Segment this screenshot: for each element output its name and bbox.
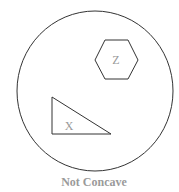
diagram-caption: Not Concave <box>61 175 127 189</box>
triangle-shape <box>52 97 111 134</box>
hexagon-label: Z <box>112 53 119 67</box>
container-circle <box>17 11 173 171</box>
diagram-canvas: Z X Not Concave <box>0 0 179 192</box>
triangle-label: X <box>65 119 74 133</box>
